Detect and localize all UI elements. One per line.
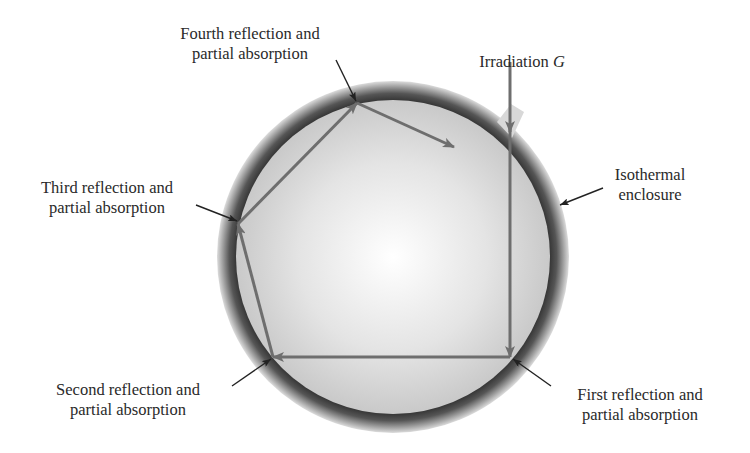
label-second-reflection: Second reflection and partial absorption	[28, 380, 228, 420]
label-first-reflection: First reflection and partial absorption	[550, 385, 730, 425]
leader-enclosure	[560, 188, 603, 205]
label-fourth-reflection: Fourth reflection and partial absorption	[150, 24, 350, 64]
irradiation-symbol: G	[553, 52, 565, 71]
label-third-reflection: Third reflection and partial absorption	[12, 178, 202, 218]
label-irradiation: Irradiation G	[462, 52, 582, 72]
enclosure-interior	[236, 100, 550, 414]
label-isothermal-enclosure: Isothermal enclosure	[602, 165, 698, 205]
